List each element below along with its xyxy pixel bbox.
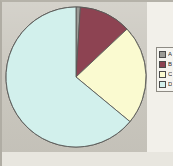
legend-swatch-b bbox=[159, 61, 166, 68]
legend-swatch-c bbox=[159, 71, 166, 78]
legend-swatch-d bbox=[159, 81, 166, 88]
pie-chart-figure: A B C D bbox=[0, 0, 173, 166]
pie-svg bbox=[4, 5, 148, 149]
legend-swatch-a bbox=[159, 51, 166, 58]
legend-item[interactable]: A bbox=[159, 50, 173, 59]
legend-label-b: B bbox=[168, 61, 172, 68]
chart-legend: A B C D bbox=[156, 47, 173, 92]
legend-label-d: D bbox=[168, 81, 172, 88]
legend-label-a: A bbox=[168, 51, 172, 58]
legend-item[interactable]: C bbox=[159, 70, 173, 79]
legend-item[interactable]: D bbox=[159, 80, 173, 89]
legend-item[interactable]: B bbox=[159, 60, 173, 69]
paper-margin-bottom bbox=[0, 152, 173, 166]
legend-label-c: C bbox=[168, 71, 172, 78]
pie-slice-group bbox=[6, 7, 146, 147]
pie-plot-area bbox=[4, 5, 148, 149]
